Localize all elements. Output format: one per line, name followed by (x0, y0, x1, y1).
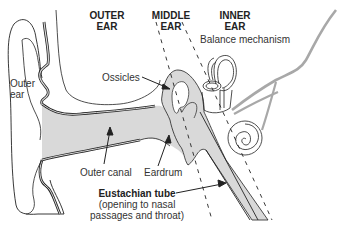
cochlea (228, 121, 262, 155)
label-outer-canal: Outer canal (80, 167, 132, 178)
region-middle-line2: EAR (148, 21, 194, 32)
ear-diagram: OUTER EAR MIDDLE EAR INNER EAR Balance m… (0, 0, 342, 234)
region-outer-line2: EAR (87, 21, 127, 32)
region-middle-line1: MIDDLE (148, 10, 194, 21)
label-outer-ear: Outer ear (10, 78, 35, 100)
label-eustachian-tube: Eustachian tube (opening to nasal passag… (90, 188, 184, 221)
label-outer-ear-line1: Outer (10, 78, 35, 89)
region-inner-line1: INNER (215, 10, 255, 21)
region-label-middle-ear: MIDDLE EAR (148, 10, 194, 32)
label-balance-mechanism: Balance mechanism (200, 34, 290, 45)
label-eustachian-line2: (opening to nasal (90, 199, 184, 210)
label-ossicles: Ossicles (102, 72, 140, 83)
region-inner-line2: EAR (215, 21, 255, 32)
label-eustachian-line3: passages and throat) (90, 210, 184, 221)
label-eardrum: Eardrum (144, 167, 182, 178)
region-label-outer-ear: OUTER EAR (87, 10, 127, 32)
region-outer-line1: OUTER (87, 10, 127, 21)
region-label-inner-ear: INNER EAR (215, 10, 255, 32)
label-outer-ear-line2: ear (10, 89, 35, 100)
label-eustachian-title: Eustachian tube (90, 188, 184, 199)
